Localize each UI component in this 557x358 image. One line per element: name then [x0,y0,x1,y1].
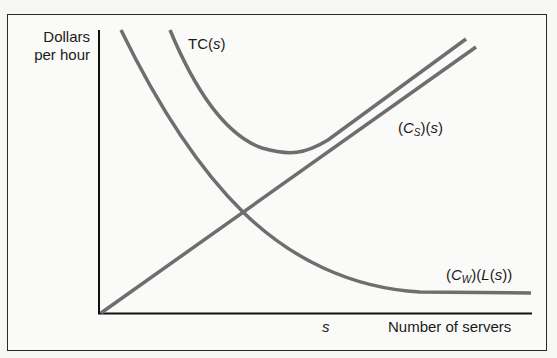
service-cost-line [101,47,476,313]
s-marker: s [322,318,330,336]
tc-label: TC(s) [188,35,226,53]
y-axis-label: Dollars per hour [20,28,90,64]
x-axis-label: Number of servers [388,318,511,336]
cs-label: (CS)(s) [398,119,443,142]
cw-label: (CW)(L(s)) [446,266,512,289]
